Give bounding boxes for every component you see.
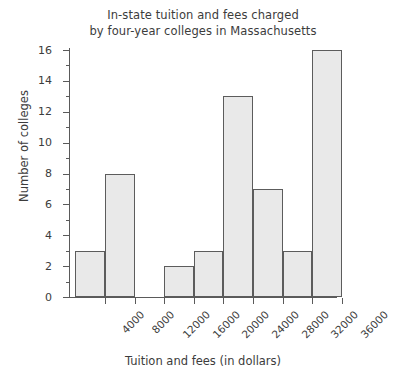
x-axis-title: Tuition and fees (in dollars)	[0, 355, 406, 367]
bar-16000-20000	[194, 251, 224, 297]
x-tick-label-24000: 24000	[270, 309, 301, 340]
y-tick-4	[63, 235, 70, 236]
x-tick-12000	[164, 298, 165, 304]
x-tick-20000	[223, 298, 224, 304]
y-tick-14	[63, 81, 70, 82]
x-tick-24000	[253, 298, 254, 304]
x-tick-4000	[105, 298, 106, 304]
x-tick-28000	[283, 298, 284, 304]
y-minor-tick-9	[66, 158, 70, 159]
y-tick-label-4: 4	[24, 230, 52, 241]
bar-28000-32000	[283, 251, 313, 297]
bar-12000-16000	[164, 266, 194, 297]
x-tick-label-20000: 20000	[240, 309, 271, 340]
y-tick-6	[63, 204, 70, 205]
x-tick-label-36000: 36000	[359, 309, 390, 340]
x-tick-label-8000: 8000	[149, 309, 176, 336]
x-tick-label-12000: 12000	[181, 309, 212, 340]
y-minor-tick-11	[66, 127, 70, 128]
y-tick-label-10: 10	[24, 137, 52, 148]
y-minor-tick-13	[66, 96, 70, 97]
bar-4000-8000	[105, 174, 135, 298]
x-axis-line	[69, 297, 337, 298]
x-tick-label-32000: 32000	[329, 309, 360, 340]
y-tick-label-8: 8	[24, 168, 52, 179]
y-minor-tick-3	[66, 251, 70, 252]
bar-20000-24000	[223, 96, 253, 297]
x-tick-8000	[135, 298, 136, 304]
x-tick-label-4000: 4000	[120, 309, 147, 336]
y-tick-label-6: 6	[24, 199, 52, 210]
y-tick-0	[63, 297, 70, 298]
y-minor-tick-15	[66, 65, 70, 66]
y-tick-2	[63, 266, 70, 267]
y-tick-10	[63, 143, 70, 144]
y-minor-tick-1	[66, 282, 70, 283]
y-tick-12	[63, 112, 70, 113]
y-minor-tick-5	[66, 220, 70, 221]
y-tick-label-16: 16	[24, 45, 52, 56]
bar-0-4000	[75, 251, 105, 297]
y-tick-label-2: 2	[24, 261, 52, 272]
y-tick-label-14: 14	[24, 75, 52, 86]
y-tick-8	[63, 174, 70, 175]
x-tick-16000	[194, 298, 195, 304]
x-tick-label-28000: 28000	[299, 309, 330, 340]
y-tick-label-0: 0	[24, 292, 52, 303]
x-tick-36000	[342, 298, 343, 304]
x-tick-32000	[312, 298, 313, 304]
y-tick-label-12: 12	[24, 106, 52, 117]
histogram-plot: Number of colleges Tuition and fees (in …	[0, 0, 406, 388]
y-minor-tick-7	[66, 189, 70, 190]
x-tick-label-16000: 16000	[211, 309, 242, 340]
y-tick-16	[63, 50, 70, 51]
bar-24000-28000	[253, 189, 283, 297]
bar-32000-36000	[312, 50, 342, 297]
